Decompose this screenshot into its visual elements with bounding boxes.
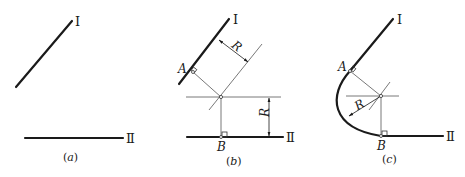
line-2-label: Ⅱ: [126, 131, 135, 146]
line-1-label: Ⅰ: [397, 12, 402, 27]
line-2-label: Ⅱ: [446, 129, 455, 144]
caption-a: (a): [63, 151, 78, 164]
perpendicular-a: [193, 72, 221, 97]
point-a: [192, 71, 195, 74]
line-1-label: Ⅰ: [75, 14, 80, 29]
panel-a: Ⅰ Ⅱ (a): [16, 14, 135, 164]
point-a-label: A: [177, 62, 187, 76]
point-a-label: A: [337, 60, 347, 74]
arc-tangent-construction-diagram: Ⅰ Ⅱ (a) Ⅰ R A R Ⅱ B (b): [0, 0, 465, 177]
point-b-label: B: [376, 139, 386, 153]
point-b-label: B: [216, 140, 226, 154]
caption-c: (c): [382, 153, 397, 166]
point-a: [349, 70, 352, 73]
radius-label: R: [351, 96, 367, 113]
line-1-label: Ⅰ: [233, 12, 238, 27]
panel-c: Ⅰ R A Ⅱ B (c): [337, 12, 455, 166]
line-1: [16, 21, 72, 87]
panel-b: Ⅰ R A R Ⅱ B (b): [177, 12, 295, 168]
dimension-r2-label: R: [258, 108, 272, 118]
center-point: [379, 94, 382, 97]
line-2-label: Ⅱ: [286, 130, 295, 145]
point-b: [220, 136, 223, 139]
caption-b: (b): [226, 155, 242, 168]
radius-a: [350, 71, 381, 96]
center-point: [219, 95, 222, 98]
dimension-r1-label: R: [228, 37, 245, 54]
line-1: [350, 19, 393, 71]
point-b: [380, 135, 383, 138]
